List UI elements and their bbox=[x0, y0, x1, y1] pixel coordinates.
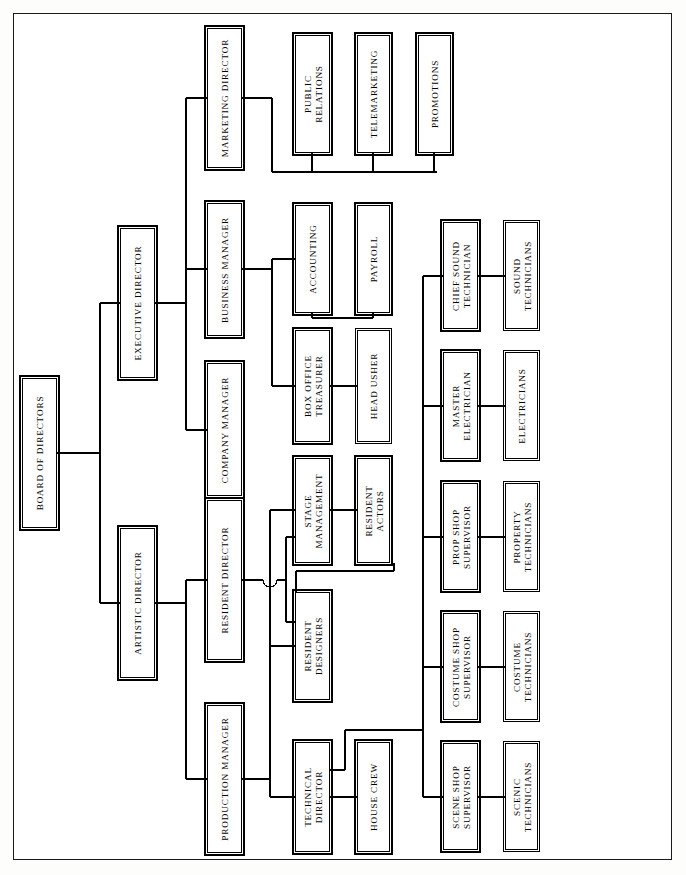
org-node-costume_tech[interactable]: COSTUMETECHNICIANS bbox=[505, 613, 538, 720]
org-node-master_elec[interactable]: MASTERELECTRICIAN bbox=[443, 352, 478, 459]
org-node-res_design[interactable]: RESIDENTDESIGNERS bbox=[295, 592, 330, 700]
org-node-exec[interactable]: EXECUTIVE DIRECTOR bbox=[120, 228, 155, 378]
org-node-sound_tech[interactable]: SOUNDTECHNICIANS bbox=[505, 222, 538, 329]
page-frame bbox=[13, 13, 672, 860]
org-node-label: PUBLICRELATIONS bbox=[302, 65, 323, 123]
org-node-promotions[interactable]: PROMOTIONS bbox=[418, 35, 451, 153]
org-node-label: BOX OFFICETREASURER bbox=[302, 355, 323, 417]
org-node-scene_shop[interactable]: SCENE SHOPSUPERVISOR bbox=[443, 743, 478, 850]
org-node-electricians[interactable]: ELECTRICIANS bbox=[505, 352, 538, 459]
org-node-label: PROPERTYTECHNICIANS bbox=[511, 501, 532, 572]
org-node-tech_dir[interactable]: TECHNICALDIRECTOR bbox=[295, 742, 330, 852]
org-node-label: PROMOTIONS bbox=[429, 60, 440, 128]
org-node-label: MASTERELECTRICIAN bbox=[450, 371, 471, 441]
org-node-label: PRODUCTION MANAGER bbox=[219, 717, 230, 840]
org-node-public_rel[interactable]: PUBLICRELATIONS bbox=[295, 35, 330, 153]
org-chart-page: BOARD OF DIRECTORSEXECUTIVE DIRECTORARTI… bbox=[0, 0, 686, 875]
org-node-box_office[interactable]: BOX OFFICETREASURER bbox=[295, 330, 330, 442]
org-node-label: COSTUME SHOPSUPERVISOR bbox=[450, 627, 471, 707]
org-node-label: SOUNDTECHNICIANS bbox=[511, 240, 532, 311]
org-node-label: CHIEF SOUNDTECHNICIAN bbox=[450, 241, 471, 311]
org-node-label: EXECUTIVE DIRECTOR bbox=[132, 246, 143, 361]
org-node-label: COMPANY MANAGER bbox=[219, 376, 230, 482]
org-node-label: ARTISTIC DIRECTOR bbox=[132, 551, 143, 654]
org-node-label: RESIDENTACTORS bbox=[363, 485, 384, 536]
org-node-accounting[interactable]: ACCOUNTING bbox=[295, 205, 330, 313]
org-node-label: SCENICTECHNICIANS bbox=[511, 761, 532, 832]
org-node-payroll[interactable]: PAYROLL bbox=[357, 205, 390, 313]
org-node-head_usher[interactable]: HEAD USHER bbox=[357, 330, 390, 442]
org-node-costume_shop[interactable]: COSTUME SHOPSUPERVISOR bbox=[443, 613, 478, 720]
org-node-label: HOUSE CREW bbox=[368, 763, 379, 831]
org-node-production[interactable]: PRODUCTION MANAGER bbox=[207, 705, 242, 853]
org-node-label: HEAD USHER bbox=[368, 353, 379, 419]
org-node-telemkt[interactable]: TELEMARKETING bbox=[357, 35, 390, 153]
org-node-label: RESIDENTDESIGNERS bbox=[302, 617, 323, 675]
org-node-stage_mgmt[interactable]: STAGEMANAGEMENT bbox=[295, 458, 330, 563]
org-node-board[interactable]: BOARD OF DIRECTORS bbox=[22, 378, 57, 528]
org-node-label: PAYROLL bbox=[368, 236, 379, 283]
org-node-scenic_tech[interactable]: SCENICTECHNICIANS bbox=[505, 743, 538, 850]
org-node-label: COSTUMETECHNICIANS bbox=[511, 631, 532, 702]
org-node-label: TELEMARKETING bbox=[368, 50, 379, 139]
org-node-label: TECHNICALDIRECTOR bbox=[302, 767, 323, 827]
org-node-marketing[interactable]: MARKETING DIRECTOR bbox=[207, 28, 242, 168]
org-node-label: PROP SHOPSUPERVISOR bbox=[450, 505, 471, 569]
org-node-artistic[interactable]: ARTISTIC DIRECTOR bbox=[120, 528, 155, 678]
org-node-label: BUSINESS MANAGER bbox=[219, 217, 230, 323]
org-node-resident_dir[interactable]: RESIDENT DIRECTOR bbox=[207, 500, 242, 660]
org-node-label: STAGEMANAGEMENT bbox=[302, 473, 323, 548]
org-node-business[interactable]: BUSINESS MANAGER bbox=[207, 203, 242, 336]
org-node-label: MARKETING DIRECTOR bbox=[219, 39, 230, 158]
org-node-label: ACCOUNTING bbox=[307, 224, 318, 293]
org-node-company[interactable]: COMPANY MANAGER bbox=[207, 363, 242, 496]
org-node-label: SCENE SHOPSUPERVISOR bbox=[450, 765, 471, 829]
org-node-label: RESIDENT DIRECTOR bbox=[219, 527, 230, 634]
org-node-chief_sound[interactable]: CHIEF SOUNDTECHNICIAN bbox=[443, 222, 478, 329]
org-node-prop_shop[interactable]: PROP SHOPSUPERVISOR bbox=[443, 483, 478, 590]
org-node-res_actors[interactable]: RESIDENTACTORS bbox=[357, 458, 390, 563]
org-node-house_crew[interactable]: HOUSE CREW bbox=[357, 742, 390, 852]
org-node-prop_tech[interactable]: PROPERTYTECHNICIANS bbox=[505, 483, 538, 590]
org-node-label: ELECTRICIANS bbox=[516, 368, 527, 444]
org-node-label: BOARD OF DIRECTORS bbox=[34, 396, 45, 511]
